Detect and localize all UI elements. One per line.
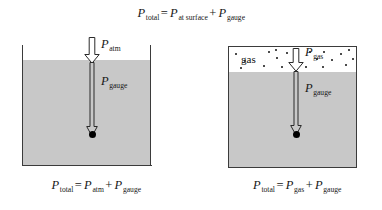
p-gauge-label-right: Pgauge [305, 82, 331, 95]
gas-particle [323, 51, 325, 53]
gas-particle [322, 66, 324, 68]
gas-particle [268, 51, 270, 53]
p-gas-label: Pgas [305, 46, 323, 59]
right-caption-lhs: Ptotal [253, 178, 274, 192]
gas-particle [281, 66, 283, 68]
p-gas-arrow [288, 48, 304, 72]
gas-label: gas [241, 54, 256, 65]
right-container-wall-right [356, 46, 357, 168]
right-caption-equation: Ptotal=Pgas+Pgauge [222, 178, 372, 193]
right-container-wall-left [228, 46, 229, 168]
gas-particle [352, 58, 354, 60]
gas-particle [275, 49, 277, 51]
gas-particle [348, 49, 350, 51]
right-measurement-point [293, 131, 300, 138]
right-caption-plus: + [304, 178, 315, 192]
gas-particle [340, 53, 342, 55]
right-caption-term2: Pgauge [315, 178, 341, 192]
gas-particle [235, 53, 237, 55]
gas-particle [240, 67, 242, 69]
gas-particle [276, 57, 278, 59]
gas-particle [331, 59, 333, 61]
right-caption-equals: = [274, 178, 285, 192]
gas-particle [263, 65, 265, 67]
gas-particle [345, 64, 347, 66]
right-caption-term1: Pgas [286, 178, 304, 192]
gas-particle [305, 66, 307, 68]
p-gauge-arrow-right [290, 71, 302, 136]
figure-canvas: Ptotal=Pat surface+Pgauge Patm Pgauge Pt… [0, 0, 382, 210]
right-container-wall-bottom [228, 167, 357, 168]
